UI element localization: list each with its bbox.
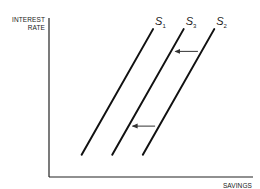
supply-line-s1 — [82, 29, 153, 155]
y-axis-label-line2: RATE — [28, 24, 46, 31]
supply-line-s3 — [112, 29, 183, 155]
label-s2: S2 — [216, 15, 227, 29]
label-s1: S1 — [155, 15, 166, 29]
label-s3: S3 — [186, 15, 197, 29]
x-axis-label: SAVINGS — [223, 182, 253, 189]
savings-supply-diagram: INTEREST RATE SAVINGS S1 S3 S2 — [0, 0, 260, 189]
y-axis-label-line1: INTEREST — [12, 16, 45, 23]
supply-line-s2 — [143, 29, 214, 155]
